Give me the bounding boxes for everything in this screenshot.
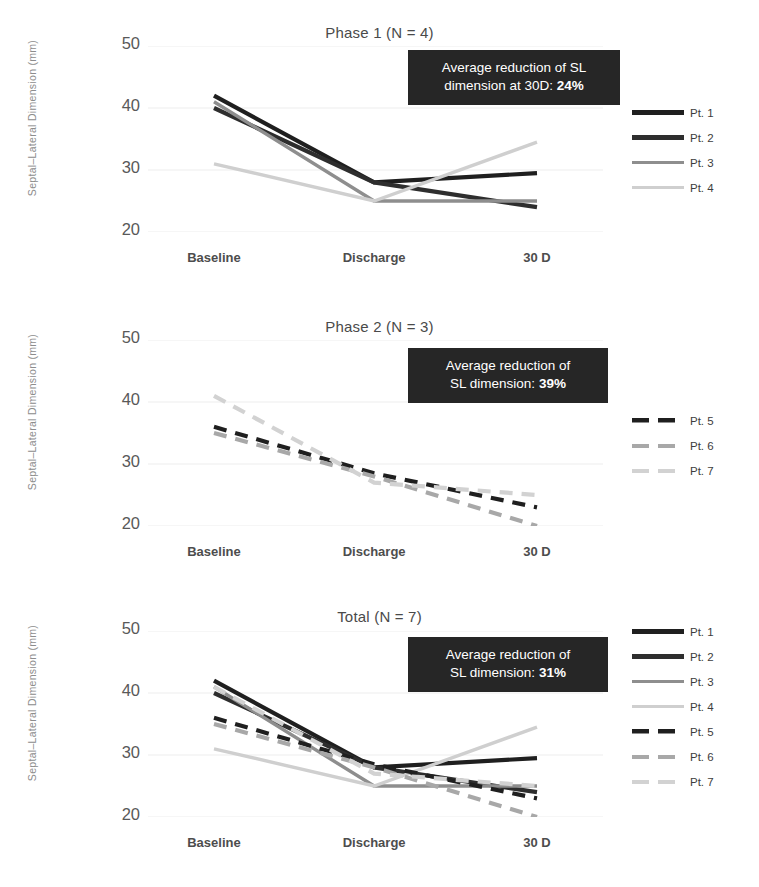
y-tick-label: 20 [96,220,140,239]
x-tick-label-30-d: 30 D [477,544,597,559]
y-tick-label: 30 [96,452,140,471]
annotation-line-1: Average reduction of SL [442,60,587,75]
legend-item-pt-5[interactable]: Pt. 5 [632,408,714,433]
legend-swatch-icon [632,110,684,115]
y-tick-label: 30 [96,158,140,177]
x-tick-label-baseline: Baseline [154,250,274,265]
legend-item-pt-4[interactable]: Pt. 4 [632,175,714,200]
legend-phase-2: Pt. 5Pt. 6Pt. 7 [632,408,714,483]
series-line-pt-1 [214,96,537,183]
chart-panel-total: Total (N = 7) Septal–Lateral Dimension (… [0,595,759,887]
y-axis-label-phase-1: Septal–Lateral Dimension (mm) [26,18,38,218]
annotation-line-1: Average reduction of [446,358,570,373]
legend-swatch-icon [632,780,684,784]
legend-label: Pt. 1 [690,626,714,638]
series-line-pt-4 [214,142,537,201]
legend-item-pt-7[interactable]: Pt. 7 [632,458,714,483]
y-tick-label: 40 [96,96,140,115]
legend-swatch-icon [632,629,684,634]
annotation-value: 31% [539,665,566,680]
x-tick-label-30-d: 30 D [477,835,597,850]
y-tick-label: 40 [96,681,140,700]
legend-item-pt-6[interactable]: Pt. 6 [632,433,714,458]
y-tick-label: 50 [96,619,140,638]
annotation-line-2-prefix: dimension at 30D: [444,78,557,93]
series-line-pt-6 [214,433,537,526]
series-line-pt-5 [214,427,537,508]
legend-phase-1: Pt. 1Pt. 2Pt. 3Pt. 4 [632,100,714,200]
annotation-line-2-prefix: SL dimension: [450,376,539,391]
legend-swatch-icon [632,755,684,759]
x-tick-label-baseline: Baseline [154,544,274,559]
series-line-pt-3 [214,102,537,201]
x-tick-label-discharge: Discharge [314,544,434,559]
legend-item-pt-4[interactable]: Pt. 4 [632,694,714,719]
series-line-pt-6 [214,724,537,817]
annotation-line-2-prefix: SL dimension: [450,665,539,680]
legend-label: Pt. 3 [690,157,714,169]
legend-label: Pt. 1 [690,107,714,119]
y-axis-label-total: Septal–Lateral Dimension (mm) [26,603,38,803]
legend-swatch-icon [632,469,684,473]
y-tick-label: 50 [96,328,140,347]
legend-label: Pt. 4 [690,701,714,713]
legend-label: Pt. 6 [690,440,714,452]
legend-label: Pt. 4 [690,182,714,194]
y-tick-label: 20 [96,514,140,533]
legend-item-pt-6[interactable]: Pt. 6 [632,744,714,769]
legend-label: Pt. 6 [690,751,714,763]
legend-label: Pt. 7 [690,776,714,788]
chart-panel-phase-1: Phase 1 (N = 4) Septal–Lateral Dimension… [0,0,759,300]
annotation-box-phase-2: Average reduction of SL dimension: 39% [408,348,608,403]
legend-item-pt-5[interactable]: Pt. 5 [632,719,714,744]
y-axis-label-phase-2: Septal–Lateral Dimension (mm) [26,312,38,512]
legend-item-pt-3[interactable]: Pt. 3 [632,150,714,175]
legend-item-pt-3[interactable]: Pt. 3 [632,669,714,694]
chart-panel-phase-2: Phase 2 (N = 3) Septal–Lateral Dimension… [0,300,759,595]
legend-item-pt-7[interactable]: Pt. 7 [632,769,714,794]
legend-swatch-icon [632,729,684,734]
annotation-value: 39% [539,376,566,391]
annotation-box-total: Average reduction of SL dimension: 31% [408,637,608,692]
legend-swatch-icon [632,680,684,684]
legend-label: Pt. 5 [690,726,714,738]
legend-label: Pt. 5 [690,415,714,427]
series-line-pt-1 [214,681,537,768]
legend-swatch-icon [632,161,684,165]
y-tick-label: 40 [96,390,140,409]
x-tick-label-baseline: Baseline [154,835,274,850]
y-tick-label: 30 [96,743,140,762]
legend-swatch-icon [632,705,684,709]
x-tick-label-30-d: 30 D [477,250,597,265]
legend-swatch-icon [632,418,684,423]
legend-label: Pt. 2 [690,132,714,144]
annotation-value: 24% [557,78,584,93]
annotation-line-1: Average reduction of [446,647,570,662]
y-tick-label: 50 [96,34,140,53]
legend-label: Pt. 3 [690,676,714,688]
legend-label: Pt. 7 [690,465,714,477]
legend-swatch-icon [632,654,684,659]
legend-item-pt-2[interactable]: Pt. 2 [632,644,714,669]
y-tick-label: 20 [96,805,140,824]
legend-item-pt-1[interactable]: Pt. 1 [632,619,714,644]
legend-item-pt-2[interactable]: Pt. 2 [632,125,714,150]
legend-swatch-icon [632,444,684,448]
legend-item-pt-1[interactable]: Pt. 1 [632,100,714,125]
legend-swatch-icon [632,135,684,140]
legend-total: Pt. 1Pt. 2Pt. 3Pt. 4Pt. 5Pt. 6Pt. 7 [632,619,714,794]
x-tick-label-discharge: Discharge [314,250,434,265]
legend-swatch-icon [632,186,684,190]
annotation-box-phase-1: Average reduction of SL dimension at 30D… [408,50,620,105]
legend-label: Pt. 2 [690,651,714,663]
x-tick-label-discharge: Discharge [314,835,434,850]
